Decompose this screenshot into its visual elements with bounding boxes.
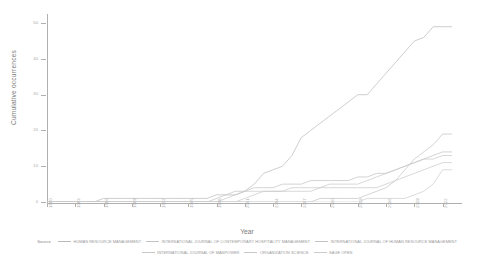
y-tick-label: 10 (33, 164, 38, 168)
legend-label: INTERNATIONAL JOURNAL OF MANPOWER (157, 251, 239, 255)
legend-label: HUMAN RESOURCE MANAGEMENT (74, 240, 142, 244)
legend-item[interactable]: ORGANIZATION SCIENCE (244, 251, 308, 255)
series-line (47, 170, 452, 202)
legend-swatch-icon (146, 241, 159, 242)
y-tick-mark (41, 95, 46, 96)
legend-item[interactable]: INTERNATIONAL JOURNAL OF MANPOWER (142, 251, 240, 255)
series-line (47, 156, 452, 203)
legend-swatch-icon (142, 252, 155, 253)
legend-row: INTERNATIONAL JOURNAL OF MANPOWERORGANIZ… (0, 247, 494, 258)
legend-item[interactable]: HUMAN RESOURCE MANAGEMENT (58, 240, 141, 244)
legend-row: Source HUMAN RESOURCE MANAGEMENTINTERNAT… (0, 236, 494, 247)
y-tick-label: 20 (33, 128, 38, 132)
cumulative-occurrences-chart: Cumulative occurrences 01020304050 19801… (0, 0, 494, 270)
series-line (47, 134, 452, 202)
x-axis-label: Year (0, 228, 494, 235)
series-line (47, 27, 452, 202)
legend-swatch-icon (315, 241, 328, 242)
legend-item[interactable]: SAGE OPEN (314, 251, 353, 255)
legend-title: Source (37, 239, 51, 244)
y-axis-label: Cumulative occurrences (10, 13, 17, 163)
y-tick-mark (41, 202, 46, 203)
chart-legend: Source HUMAN RESOURCE MANAGEMENTINTERNAT… (0, 236, 494, 258)
y-tick-mark (41, 166, 46, 167)
legend-swatch-icon (314, 252, 327, 253)
legend-swatch-icon (244, 252, 257, 253)
y-tick-label: 40 (33, 57, 38, 61)
legend-label: INTERNATIONAL JOURNAL OF CONTEMPORARY HO… (162, 240, 310, 244)
series-line (47, 163, 452, 202)
series-lines (47, 16, 452, 202)
legend-label: SAGE OPEN (329, 251, 352, 255)
y-tick-label: 0 (36, 200, 38, 204)
plot-area (47, 16, 452, 202)
series-line (47, 152, 452, 202)
y-tick-label: 30 (33, 92, 38, 96)
legend-item[interactable]: INTERNATIONAL JOURNAL OF CONTEMPORARY HO… (146, 240, 310, 244)
y-tick-label: 50 (33, 21, 38, 25)
legend-label: ORGANIZATION SCIENCE (260, 251, 309, 255)
y-tick-mark (41, 130, 46, 131)
legend-swatch-icon (58, 241, 71, 242)
y-tick-mark (41, 59, 46, 60)
y-tick-mark (41, 23, 46, 24)
legend-label: INTERNATIONAL JOURNAL OF HUMAN RESOURCE … (331, 240, 457, 244)
legend-item[interactable]: INTERNATIONAL JOURNAL OF HUMAN RESOURCE … (315, 240, 457, 244)
